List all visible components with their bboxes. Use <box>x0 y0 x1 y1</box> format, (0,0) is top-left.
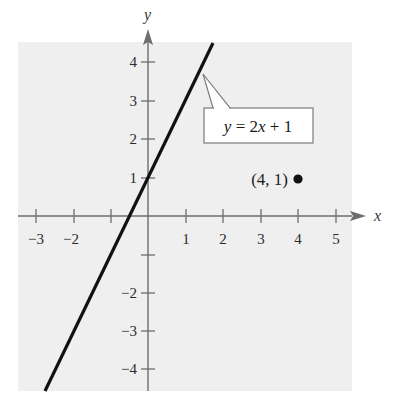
x-tick-label: 3 <box>257 231 265 247</box>
x-tick-label: 1 <box>182 231 190 247</box>
y-tick-label: −4 <box>121 361 137 377</box>
x-tick-label: 4 <box>294 231 302 247</box>
chart: −3 −2 1 2 3 4 5 x 4 3 2 1 −2 −3 −4 y y =… <box>0 0 399 410</box>
x-tick-label: 5 <box>332 231 340 247</box>
y-tick-label: −2 <box>121 285 137 301</box>
point-4-1 <box>293 174 302 183</box>
x-tick-label: −3 <box>28 231 44 247</box>
y-tick-label: 4 <box>130 54 138 70</box>
point-label: (4, 1) <box>251 170 288 189</box>
y-tick-label: 3 <box>130 93 138 109</box>
x-axis-arrow-icon <box>350 211 366 221</box>
y-tick-label: −3 <box>121 323 137 339</box>
x-tick-label: −2 <box>63 231 79 247</box>
y-tick-label: 1 <box>130 170 138 186</box>
x-axis-label: x <box>373 207 381 224</box>
x-tick-label: 2 <box>219 231 227 247</box>
equation-label: y = 2x + 1 <box>222 117 292 136</box>
y-axis-label: y <box>142 6 152 24</box>
y-tick-label: 2 <box>130 131 138 147</box>
